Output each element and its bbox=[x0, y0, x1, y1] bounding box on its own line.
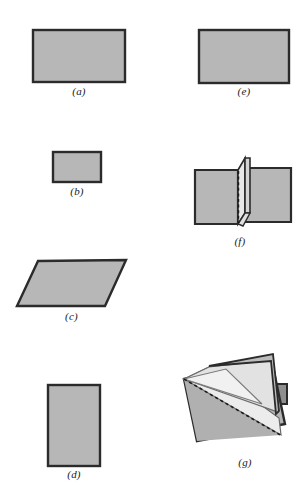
panel-g: (g) bbox=[154, 352, 308, 490]
parallelogram-c-body bbox=[17, 260, 126, 306]
shape-folded-sheet-g bbox=[154, 352, 308, 470]
panel-label-g: (g) bbox=[205, 456, 285, 468]
panel-label-f: (f) bbox=[185, 235, 295, 247]
panel-label-a: (a) bbox=[33, 85, 125, 97]
rectangle-d-body bbox=[48, 385, 100, 466]
shape-rectangle-b bbox=[0, 140, 154, 190]
rectangle-e-body bbox=[199, 30, 289, 83]
panel-label-e: (e) bbox=[199, 85, 289, 97]
rectangle-a-body bbox=[33, 30, 125, 82]
panel-b: (b) bbox=[0, 140, 154, 210]
folded-sheet-f-left-panel bbox=[195, 170, 238, 224]
panel-c: (c) bbox=[0, 250, 154, 335]
folded-sheet-f-flap-spine bbox=[245, 158, 250, 213]
panel-a: (a) bbox=[0, 0, 154, 110]
shape-rectangle-d bbox=[0, 378, 154, 474]
panel-label-b: (b) bbox=[53, 185, 101, 197]
panel-e: (e) bbox=[154, 0, 308, 110]
rectangle-b-body bbox=[53, 152, 101, 182]
figure-sheet: (a) (b) (c) (d) (e) bbox=[0, 0, 308, 492]
shape-parallelogram-c bbox=[0, 250, 154, 312]
shape-folded-sheet-f bbox=[154, 150, 308, 240]
panel-d: (d) bbox=[0, 378, 154, 490]
panel-label-d: (d) bbox=[48, 468, 100, 480]
panel-label-c: (c) bbox=[17, 310, 126, 322]
panel-f: (f) bbox=[154, 150, 308, 255]
